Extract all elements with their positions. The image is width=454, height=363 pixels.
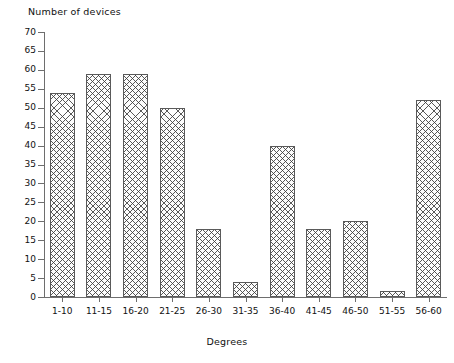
y-axis-tick-label-wrap: 15: [0, 236, 36, 245]
y-axis-tick-label-wrap: 35: [0, 160, 36, 169]
y-axis-tick-label: 60: [2, 65, 36, 74]
bar-chart: Number of devices 0510152025303540455055…: [0, 0, 454, 363]
y-axis-tick: [38, 240, 45, 241]
bar: [86, 74, 111, 297]
x-axis-tick: [429, 297, 430, 302]
x-axis-tick: [246, 297, 247, 302]
y-axis-tick: [38, 89, 45, 90]
bar: [416, 100, 441, 297]
y-axis-tick: [38, 165, 45, 166]
x-axis-tick-label: 56-60: [416, 306, 442, 316]
y-axis-tick: [38, 51, 45, 52]
x-axis-tick-label: 21-25: [159, 306, 185, 316]
y-axis-tick-label: 50: [2, 103, 36, 112]
x-axis-tick: [282, 297, 283, 302]
y-axis-tick: [38, 32, 45, 33]
y-axis-tick: [38, 183, 45, 184]
y-axis-tick: [38, 221, 45, 222]
y-axis-tick: [38, 297, 45, 298]
x-axis-tick: [62, 297, 63, 302]
y-axis-tick-label: 35: [2, 160, 36, 169]
y-axis-tick-label: 40: [2, 141, 36, 150]
y-axis-tick-label-wrap: 5: [0, 274, 36, 283]
bar: [233, 282, 258, 297]
x-axis-tick-label: 36-40: [269, 306, 295, 316]
y-axis-tick-label: 55: [2, 84, 36, 93]
x-axis-tick: [172, 297, 173, 302]
y-axis-tick-label: 0: [2, 293, 36, 302]
y-axis-tick: [38, 278, 45, 279]
x-axis-tick: [99, 297, 100, 302]
y-axis-tick-label: 45: [2, 122, 36, 131]
x-axis-tick-label: 41-45: [306, 306, 332, 316]
y-axis-tick-label-wrap: 30: [0, 179, 36, 188]
y-axis-tick-label-wrap: 70: [0, 28, 36, 37]
y-axis-tick-label-wrap: 45: [0, 122, 36, 131]
x-axis-tick: [209, 297, 210, 302]
bar: [196, 229, 221, 297]
y-axis-tick: [38, 70, 45, 71]
y-axis-tick-label: 10: [2, 255, 36, 264]
y-axis-tick-label-wrap: 50: [0, 103, 36, 112]
x-axis-tick: [392, 297, 393, 302]
y-axis-tick-label-wrap: 10: [0, 255, 36, 264]
y-axis-tick-label-wrap: 55: [0, 84, 36, 93]
y-axis-tick-label-wrap: 40: [0, 141, 36, 150]
y-axis-tick: [38, 127, 45, 128]
y-axis-tick-label-wrap: 20: [0, 217, 36, 226]
y-axis-tick-label: 65: [2, 46, 36, 55]
y-axis-tick: [38, 259, 45, 260]
y-axis-tick-label: 15: [2, 236, 36, 245]
y-axis-tick: [38, 202, 45, 203]
y-axis-tick-label-wrap: 65: [0, 46, 36, 55]
y-axis-tick: [38, 108, 45, 109]
y-axis-tick-label: 30: [2, 179, 36, 188]
x-axis-tick: [355, 297, 356, 302]
y-axis-tick-label: 70: [2, 28, 36, 37]
y-axis-tick-label-wrap: 60: [0, 65, 36, 74]
bar: [343, 221, 368, 297]
x-axis-tick: [136, 297, 137, 302]
x-axis-tick-label: 31-35: [232, 306, 258, 316]
plot-area: 0510152025303540455055606570 1-1011-1516…: [0, 0, 454, 363]
y-axis-tick-label: 20: [2, 217, 36, 226]
bar: [306, 229, 331, 297]
y-axis-tick: [38, 146, 45, 147]
x-axis-title: Degrees: [0, 336, 454, 347]
x-axis-tick-label: 11-15: [86, 306, 112, 316]
bar: [50, 93, 75, 297]
x-axis-tick-label: 16-20: [123, 306, 149, 316]
y-axis-tick-label-wrap: 0: [0, 293, 36, 302]
x-axis-tick-label: 51-55: [379, 306, 405, 316]
x-axis-tick-label: 26-30: [196, 306, 222, 316]
y-axis-tick-label-wrap: 25: [0, 198, 36, 207]
x-axis-tick-label: 46-50: [342, 306, 368, 316]
y-axis-tick-label: 25: [2, 198, 36, 207]
x-axis-tick: [319, 297, 320, 302]
bar: [160, 108, 185, 297]
bar: [123, 74, 148, 297]
y-axis-tick-label: 5: [2, 274, 36, 283]
bar: [270, 146, 295, 297]
x-axis-tick-label: 1-10: [52, 306, 72, 316]
